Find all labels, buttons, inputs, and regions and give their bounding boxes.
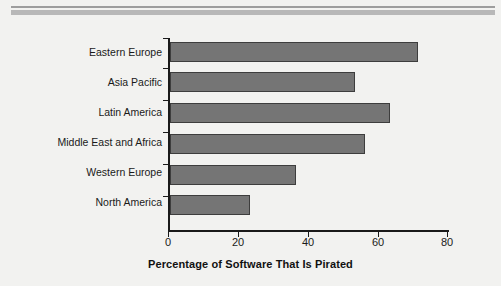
y-axis-tick [163, 164, 168, 165]
x-tick-label-20: 20 [218, 236, 258, 248]
top-rule-thick-band [11, 10, 495, 15]
category-label-latin-america: Latin America [2, 106, 162, 118]
x-tick-label-80: 80 [427, 236, 467, 248]
category-label-eastern-europe: Eastern Europe [2, 46, 162, 58]
y-axis-tick [163, 100, 168, 101]
top-rule-decoration [11, 6, 495, 18]
bar-latin-america [170, 103, 390, 123]
bar-eastern-europe [170, 42, 418, 62]
category-label-middle-east-and-africa: Middle East and Africa [2, 136, 162, 148]
y-axis-tick [163, 132, 168, 133]
category-axis-labels: Eastern Europe Asia Pacific Latin Americ… [0, 38, 162, 230]
bar-asia-pacific [170, 72, 355, 92]
y-axis-tick [163, 196, 168, 197]
x-tick-label-40: 40 [288, 236, 328, 248]
x-tick-label-0: 0 [148, 236, 188, 248]
bar-middle-east-and-africa [170, 134, 365, 154]
plot-area [168, 38, 447, 230]
bar-north-america [170, 195, 250, 215]
chart-figure: Eastern Europe Asia Pacific Latin Americ… [0, 0, 501, 286]
category-label-north-america: North America [2, 196, 162, 208]
y-axis-tick [163, 38, 168, 39]
x-tick-label-60: 60 [358, 236, 398, 248]
y-axis-tick [163, 68, 168, 69]
category-label-asia-pacific: Asia Pacific [2, 76, 162, 88]
x-axis-title: Percentage of Software That Is Pirated [0, 258, 501, 270]
bar-western-europe [170, 165, 296, 185]
category-label-western-europe: Western Europe [2, 166, 162, 178]
